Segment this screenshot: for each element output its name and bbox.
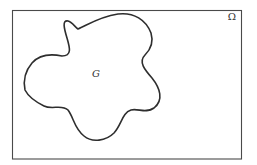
set-diagram: G Ω: [0, 0, 257, 165]
region-g-label: G: [92, 68, 100, 79]
domain-omega-label: Ω: [228, 11, 236, 22]
outer-domain-frame: [13, 11, 242, 160]
